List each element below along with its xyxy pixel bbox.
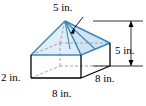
label-prism-depth: 8 in.: [95, 73, 115, 84]
label-prism-height: 2 in.: [1, 72, 21, 83]
geometry-figure: 5 in. 5 in. 8 in. 2 in. 8 in.: [0, 0, 146, 106]
label-pyramid-height: 5 in.: [115, 45, 135, 56]
height-arrowhead-bottom: [129, 60, 134, 66]
label-slant-height: 5 in.: [53, 2, 73, 13]
prism-front-face: [31, 55, 81, 78]
label-base-width: 8 in.: [52, 88, 72, 99]
height-arrowhead-top: [129, 21, 134, 27]
